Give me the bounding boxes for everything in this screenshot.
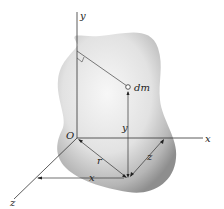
y-axis-label: y: [79, 10, 86, 21]
z-distance-label: z: [146, 151, 153, 162]
x-distance-label: x: [89, 172, 95, 183]
rigid-body: [57, 33, 176, 193]
y-distance-label: y: [121, 122, 128, 133]
x-axis-label: x: [205, 133, 211, 144]
z-axis-label: z: [9, 197, 16, 208]
origin-label: O: [66, 130, 74, 141]
diagram-canvas: y x z O dm y r x z: [0, 0, 224, 209]
arrow-x-start-icon: [37, 177, 42, 180]
mass-element-icon: [126, 85, 131, 90]
dm-label: dm: [134, 82, 150, 93]
